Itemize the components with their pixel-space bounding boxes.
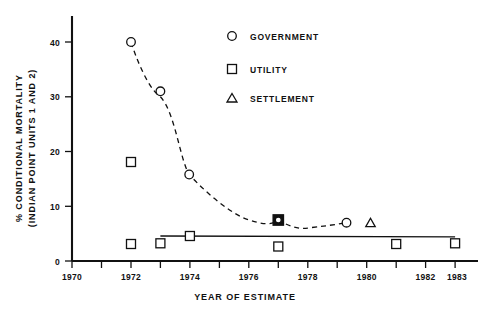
circle-icon: [228, 32, 237, 41]
utility-point-1972-high: [127, 158, 136, 167]
triangle-icon: [227, 94, 237, 103]
y-tick-label-20: 20: [50, 147, 60, 157]
legend-item-utility: UTILITY: [228, 65, 288, 75]
y-axis-title-line1: % CONDITIONAL MORTALITY: [14, 74, 24, 222]
x-tick-label-1978: 1978: [298, 272, 318, 282]
legend-item-government: GOVERNMENT: [228, 32, 319, 42]
utility-trend-line: [160, 236, 455, 237]
y-tick-label-0: 0: [55, 257, 60, 267]
x-tick-label-1972: 1972: [121, 272, 141, 282]
x-axis-title: YEAR OF ESTIMATE: [194, 292, 296, 302]
utility-point-1983: [451, 239, 460, 248]
x-tick-label-1976: 1976: [239, 272, 259, 282]
government-point-1980: [342, 218, 351, 227]
x-tick-label-1980: 1980: [357, 272, 377, 282]
square-icon: [228, 65, 237, 74]
government-point-1975: [185, 170, 194, 179]
utility-point-1974: [185, 232, 194, 241]
legend-label-utility: UTILITY: [250, 65, 288, 75]
x-tick-label-1982: 1982: [416, 272, 436, 282]
y-axis-title-line2: (INDIAN POINT UNITS 1 AND 2): [27, 69, 37, 227]
chart-figure: 0 10 20 30 40 1970 1972 1974 1976: [0, 0, 484, 320]
y-tick-label-10: 10: [50, 202, 60, 212]
utility-point-1973: [156, 239, 165, 248]
y-tick-label-30: 30: [50, 92, 60, 102]
legend-item-settlement: SETTLEMENT: [227, 94, 315, 105]
utility-point-1977-low: [274, 242, 283, 251]
conditional-mortality-scatter-chart: 0 10 20 30 40 1970 1972 1974 1976: [0, 0, 484, 320]
x-axis-ticks: 1970 1972 1974 1976 1978 1980 1982 1983: [62, 261, 467, 282]
settlement-data-points: [366, 218, 375, 226]
settlement-point-1980: [366, 218, 375, 226]
y-tick-label-40: 40: [50, 38, 60, 48]
chart-legend: GOVERNMENT UTILITY SETTLEMENT: [227, 32, 319, 105]
government-trend-line: [131, 42, 347, 228]
government-point-1973: [156, 87, 165, 96]
x-tick-label-1970: 1970: [62, 272, 82, 282]
legend-label-settlement: SETTLEMENT: [250, 94, 315, 104]
government-data-points: [127, 38, 351, 227]
legend-label-government: GOVERNMENT: [250, 32, 319, 42]
x-tick-label-1974: 1974: [180, 272, 200, 282]
utility-point-1972-low: [127, 240, 136, 249]
x-tick-label-1983: 1983: [447, 272, 467, 282]
government-point-1972: [127, 38, 136, 47]
government-point-1977-overlay: [275, 217, 281, 223]
y-axis-ticks: 0 10 20 30 40: [50, 38, 72, 267]
utility-point-1981: [392, 240, 401, 249]
